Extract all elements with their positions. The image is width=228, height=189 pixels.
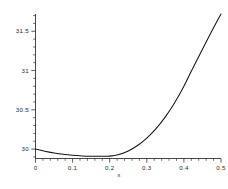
x-tick-mark-group xyxy=(36,159,222,163)
x-tick-label: 0.4 xyxy=(179,164,189,171)
chart-canvas: 3030.53131.5 00.10.20.30.40.5 x xyxy=(0,0,228,189)
y-tick-label: 31.5 xyxy=(16,27,30,34)
x-axis-title: x xyxy=(118,172,121,178)
y-tick-mark-group xyxy=(31,16,35,157)
x-tick-label: 0.5 xyxy=(216,164,226,171)
x-tick-label: 0.3 xyxy=(142,164,152,171)
x-tick-label: 0.2 xyxy=(105,164,115,171)
y-tick-label: 30.5 xyxy=(16,106,30,113)
data-series-curve xyxy=(36,14,222,156)
y-tick-label: 31 xyxy=(22,67,30,74)
x-tick-label: 0.1 xyxy=(68,164,78,171)
y-tick-label-group: 3030.53131.5 xyxy=(16,27,30,152)
plot-container: 3030.53131.5 00.10.20.30.40.5 x xyxy=(0,0,228,189)
x-tick-label-group: 00.10.20.30.40.5 xyxy=(34,164,226,171)
x-tick-label: 0 xyxy=(34,164,38,171)
y-tick-label: 30 xyxy=(22,145,30,152)
